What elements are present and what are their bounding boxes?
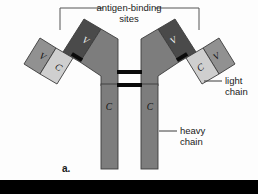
- light-chain-label-line2: chain: [225, 86, 248, 97]
- heavy-chain-stem-right: [141, 84, 158, 169]
- antibody-diagram: V V V V C C C C antigen-binding sites li…: [0, 0, 258, 194]
- bottom-black-band: [0, 180, 258, 194]
- light-chain-label-line1: light: [225, 75, 243, 86]
- heavy-chain-label-line2: chain: [180, 136, 203, 147]
- disulfide-bond-hinge-upper: [117, 70, 142, 74]
- disulfide-bond-hinge-lower: [117, 83, 142, 87]
- antibody-figure: V V V V C C C C antigen-binding sites li…: [0, 0, 258, 194]
- heavy-chain-left-arm: [63, 19, 118, 86]
- antigen-binding-label-line1: antigen-binding: [97, 2, 162, 13]
- heavy-chain-stem-left: [101, 84, 118, 169]
- light-chain-left: [24, 38, 73, 84]
- antigen-binding-label-line2: sites: [119, 13, 139, 24]
- heavy-chain-label-line1: heavy: [180, 125, 206, 136]
- heavy-chain-right-arm: [141, 19, 196, 86]
- panel-letter: a.: [62, 163, 71, 174]
- domain-label-heavy-c-right: C: [147, 102, 154, 112]
- domain-label-heavy-c-left: C: [106, 102, 113, 112]
